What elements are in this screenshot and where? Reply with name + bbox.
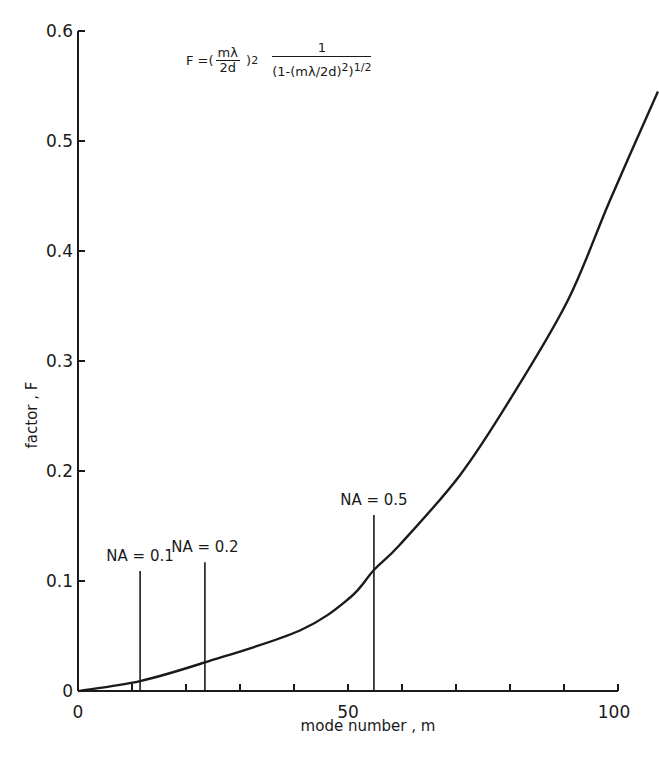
y-tick-label: 0.3 [46,351,73,371]
na-annotations: NA = 0.1NA = 0.2NA = 0.5 [106,491,407,691]
line-chart: 00.10.20.30.40.50.6050100 NA = 0.1NA = 0… [0,0,659,759]
y-tick-label: 0.5 [46,131,73,151]
axes: 00.10.20.30.40.50.6050100 [46,21,630,722]
factor-curve [78,92,658,692]
y-tick-label: 0.4 [46,241,73,261]
na-label: NA = 0.1 [106,547,173,565]
x-axis-title: mode number , m [301,717,436,735]
y-tick-label: 0.6 [46,21,73,41]
x-tick-label: 100 [598,702,630,722]
y-tick-label: 0.1 [46,571,73,591]
x-tick-label: 0 [73,702,84,722]
y-tick-label: 0.2 [46,461,73,481]
y-tick-label: 0 [62,681,73,701]
y-axis-title: factor , F [23,382,41,449]
na-label: NA = 0.5 [340,491,407,509]
na-label: NA = 0.2 [171,538,238,556]
